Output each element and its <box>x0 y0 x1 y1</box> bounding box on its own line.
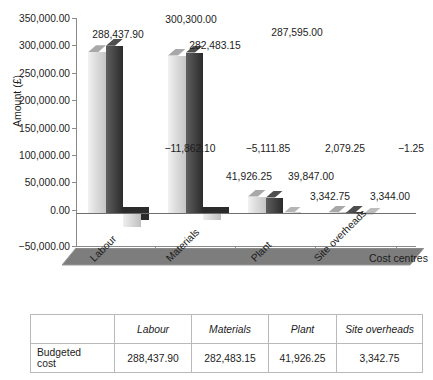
bar-front-face <box>186 53 203 214</box>
bar-materials-budgeted <box>168 49 186 214</box>
bar-front-face <box>123 214 141 228</box>
y-tick-label: 300,000.00 <box>2 40 70 51</box>
value-label-labour-budgeted: 288,437.90 <box>92 29 144 40</box>
y-tick-label: 250,000.00 <box>2 67 70 78</box>
x-axis-title: Cost centres <box>369 252 428 264</box>
bar-labour-actual <box>106 39 123 214</box>
table-row: Budgetedcost 288,437.90 282,483.15 41,92… <box>31 344 423 373</box>
table-row-header-budgeted-cost: Budgetedcost <box>31 344 115 373</box>
y-tick-label: 0.00 <box>2 204 70 215</box>
row-header-line2: cost <box>37 358 56 369</box>
value-label-materials-variance: −5,111.85 <box>246 143 291 154</box>
value-label-plant-budgeted: 41,926.25 <box>226 171 272 182</box>
value-label-materials-budgeted: 282,483.15 <box>189 40 241 51</box>
bar-chart: Amount (£) 350,000.00 300,000.00 250,000… <box>0 0 433 300</box>
bar-labour-variance <box>123 214 141 228</box>
bar-top-face <box>168 49 186 56</box>
table-col-header-labour: Labour <box>115 315 192 344</box>
table-col-header-materials: Materials <box>192 315 269 344</box>
y-tick-label: 50,000.00 <box>2 177 70 188</box>
table-cell-materials-budgeted: 282,483.15 <box>192 344 269 373</box>
bar-front-face <box>248 197 266 214</box>
bar-front-face <box>88 52 106 214</box>
value-label-site-overheads-variance: −1.25 <box>398 143 424 154</box>
table-col-header-site-overheads: Site overheads <box>337 315 423 344</box>
bar-top-face <box>88 45 106 52</box>
value-label-materials-actual: 287,595.00 <box>271 27 323 38</box>
bar-plant-budgeted <box>248 190 266 214</box>
table-cell-labour-budgeted: 288,437.90 <box>115 344 192 373</box>
table-cell-site-overheads-budgeted: 3,342.75 <box>337 344 423 373</box>
bar-labour-budgeted <box>88 45 106 214</box>
bar-front-face <box>168 56 186 214</box>
value-label-plant-variance: 2,079.25 <box>325 143 365 154</box>
y-tick-label: 150,000.00 <box>2 122 70 133</box>
bar-materials-variance <box>203 214 221 220</box>
bar-plant-actual <box>266 191 283 214</box>
y-axis-line <box>76 18 77 246</box>
y-tick-label: 100,000.00 <box>2 150 70 161</box>
table-cell-plant-budgeted: 41,926.25 <box>269 344 337 373</box>
y-tick-label: 200,000.00 <box>2 95 70 106</box>
table-col-header-plant: Plant <box>269 315 337 344</box>
bar-materials-actual <box>186 46 203 214</box>
table-header-row: Labour Materials Plant Site overheads <box>31 315 423 344</box>
y-axis-ticks: 350,000.00 300,000.00 250,000.00 200,000… <box>0 0 70 300</box>
y-tick-label: 350,000.00 <box>2 13 70 24</box>
bar-front-face <box>266 198 283 214</box>
bar-front-face <box>106 46 123 214</box>
bar-front-face <box>203 214 221 220</box>
budgeted-cost-table: Labour Materials Plant Site overheads Bu… <box>30 314 423 373</box>
value-label-labour-variance: −11,862.10 <box>164 143 215 154</box>
bar-top-face <box>248 190 266 197</box>
figure-root: Amount (£) 350,000.00 300,000.00 250,000… <box>0 0 433 380</box>
x-axis-line <box>76 246 416 247</box>
value-label-site-overheads-budgeted: 3,342.75 <box>310 191 350 202</box>
row-header-line1: Budgeted <box>37 347 81 358</box>
bar-side-face <box>221 207 229 213</box>
y-tick-label: −50,000.00 <box>2 241 70 252</box>
budgeted-cost-table-wrap: Labour Materials Plant Site overheads Bu… <box>30 314 422 373</box>
bar-top-face <box>266 191 283 198</box>
value-label-labour-actual: 300,300.00 <box>165 14 217 25</box>
table-corner-cell <box>31 315 115 344</box>
value-label-plant-actual: 39,847.00 <box>288 171 334 182</box>
value-label-site-overheads-actual: 3,344.00 <box>370 191 410 202</box>
